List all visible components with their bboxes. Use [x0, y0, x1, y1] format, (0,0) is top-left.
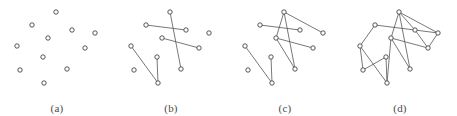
- graph-node: [155, 55, 159, 59]
- panel-c-caption: (c): [228, 102, 344, 114]
- graph-node: [293, 67, 297, 71]
- figure-container: (a) (b) (c) (d): [0, 0, 457, 116]
- graph-node: [373, 23, 377, 27]
- graph-node: [179, 67, 183, 71]
- graph-node: [397, 10, 401, 14]
- graph-node: [18, 68, 22, 72]
- graph-edge: [162, 38, 199, 48]
- graph-node: [385, 81, 389, 85]
- panel-d-caption: (d): [343, 102, 457, 114]
- graph-edge: [363, 57, 386, 70]
- panel-d-graph: [343, 0, 457, 95]
- graph-edge: [284, 12, 323, 33]
- graph-edge: [386, 57, 387, 83]
- panel-a: (a): [0, 0, 114, 116]
- graph-node: [46, 36, 50, 40]
- graph-node: [358, 44, 362, 48]
- graph-node: [258, 23, 262, 27]
- graph-node: [15, 44, 19, 48]
- graph-node: [384, 55, 388, 59]
- graph-node: [389, 36, 393, 40]
- graph-node: [282, 10, 286, 14]
- graph-node: [413, 28, 417, 32]
- graph-node: [184, 28, 188, 32]
- graph-node: [361, 68, 365, 72]
- graph-node: [54, 10, 58, 14]
- graph-edge: [360, 25, 375, 46]
- graph-node: [156, 81, 160, 85]
- panel-a-caption: (a): [0, 102, 120, 114]
- graph-node: [243, 44, 247, 48]
- panel-c: (c): [228, 0, 342, 116]
- graph-edge: [428, 33, 438, 48]
- graph-node: [144, 23, 148, 27]
- graph-edge: [157, 57, 158, 83]
- graph-node: [274, 36, 278, 40]
- graph-node: [83, 46, 87, 50]
- graph-node: [132, 68, 136, 72]
- graph-node: [30, 23, 34, 27]
- graph-node: [426, 46, 430, 50]
- graph-edge: [276, 12, 284, 38]
- graph-node: [269, 55, 273, 59]
- graph-node: [168, 10, 172, 14]
- graph-node: [298, 28, 302, 32]
- panel-b-caption: (b): [114, 102, 232, 114]
- graph-edge: [146, 25, 186, 30]
- graph-node: [93, 31, 97, 35]
- graph-edge: [391, 12, 399, 38]
- panel-b-graph: [114, 0, 228, 95]
- panel-d: (d): [343, 0, 457, 116]
- graph-edge: [271, 57, 272, 83]
- graph-node: [408, 67, 412, 71]
- graph-node: [42, 81, 46, 85]
- graph-node: [65, 67, 69, 71]
- panel-c-graph: [228, 0, 342, 95]
- graph-node: [41, 55, 45, 59]
- graph-node: [70, 28, 74, 32]
- graph-node: [160, 36, 164, 40]
- graph-edge: [245, 46, 272, 83]
- panel-a-graph: [0, 0, 114, 95]
- panel-b: (b): [114, 0, 228, 116]
- graph-node: [207, 31, 211, 35]
- graph-edge: [387, 38, 391, 83]
- graph-node: [436, 31, 440, 35]
- graph-edge: [399, 12, 415, 30]
- graph-node: [197, 46, 201, 50]
- graph-node: [129, 44, 133, 48]
- graph-edge: [131, 46, 158, 83]
- graph-node: [270, 81, 274, 85]
- graph-node: [311, 46, 315, 50]
- graph-node: [246, 68, 250, 72]
- graph-node: [321, 31, 325, 35]
- graph-edge: [399, 12, 438, 33]
